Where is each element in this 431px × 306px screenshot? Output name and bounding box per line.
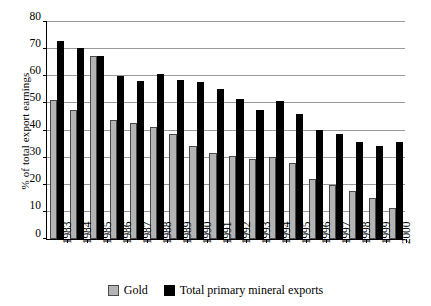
legend-label: Total primary mineral exports bbox=[180, 283, 323, 298]
x-tick-label: 1993 bbox=[261, 222, 273, 244]
y-tick-label: 60 bbox=[11, 65, 41, 77]
bar-group bbox=[127, 22, 147, 239]
bar-group bbox=[107, 22, 127, 239]
bar-total-1994 bbox=[276, 101, 283, 239]
bar-total-1995 bbox=[296, 114, 303, 239]
bar-group bbox=[227, 22, 247, 239]
bar-total-1991 bbox=[217, 89, 224, 239]
bar-total-1987 bbox=[137, 81, 144, 239]
bar-group bbox=[87, 22, 107, 239]
bar-group bbox=[386, 22, 406, 239]
bar-group bbox=[47, 22, 67, 239]
bar-gold-1985 bbox=[90, 56, 97, 239]
bar-total-1983 bbox=[57, 41, 64, 239]
bar-group bbox=[67, 22, 87, 239]
bar-total-1984 bbox=[77, 48, 84, 239]
x-tick-label: 1991 bbox=[222, 222, 234, 244]
y-tick-label: 0 bbox=[11, 228, 41, 240]
bar-total-1988 bbox=[157, 74, 164, 239]
x-tick-label: 1983 bbox=[62, 222, 74, 244]
x-tick-label: 1988 bbox=[162, 222, 174, 244]
bar-group bbox=[147, 22, 167, 239]
bar-total-1993 bbox=[256, 110, 263, 239]
x-tick-label: 1987 bbox=[142, 222, 154, 244]
y-tick-label: 50 bbox=[11, 92, 41, 104]
x-tick-label: 1984 bbox=[82, 222, 94, 244]
y-tick-label: 10 bbox=[11, 200, 41, 212]
chart-legend: GoldTotal primary mineral exports bbox=[0, 283, 431, 298]
bar-group bbox=[246, 22, 266, 239]
x-tick-label: 2000 bbox=[401, 222, 413, 244]
legend-item: Gold bbox=[108, 283, 148, 298]
x-tick-label: 1996 bbox=[321, 222, 333, 244]
bar-gold-1983 bbox=[50, 100, 57, 239]
bar-total-1985 bbox=[97, 56, 104, 239]
bar-total-1989 bbox=[177, 80, 184, 239]
plot-area: 01020304050607080 1983198419851986198719… bbox=[46, 22, 405, 240]
legend-label: Gold bbox=[124, 283, 148, 298]
y-tick-label: 40 bbox=[11, 119, 41, 131]
x-tick-label: 1995 bbox=[301, 222, 313, 244]
bar-chart-figure: % of total export earnings 0102030405060… bbox=[0, 0, 431, 306]
legend-swatch-icon bbox=[108, 285, 119, 296]
y-tick-label: 70 bbox=[11, 38, 41, 50]
x-tick-label: 1998 bbox=[361, 222, 373, 244]
y-tick-label: 20 bbox=[11, 173, 41, 185]
bar-total-1992 bbox=[236, 99, 243, 239]
bar-group bbox=[266, 22, 286, 239]
bar-total-1986 bbox=[117, 76, 124, 240]
legend-item: Total primary mineral exports bbox=[164, 283, 323, 298]
x-tick-label: 1992 bbox=[241, 222, 253, 244]
bar-group bbox=[207, 22, 227, 239]
bar-group bbox=[286, 22, 306, 239]
bar-group bbox=[167, 22, 187, 239]
y-tick-label: 30 bbox=[11, 146, 41, 158]
x-tick-label: 1999 bbox=[381, 222, 393, 244]
x-tick-label: 1990 bbox=[202, 222, 214, 244]
bar-group bbox=[346, 22, 366, 239]
bar-total-1990 bbox=[197, 82, 204, 239]
bar-gold-1984 bbox=[70, 110, 77, 239]
x-tick-label: 1985 bbox=[102, 222, 114, 244]
bar-group bbox=[326, 22, 346, 239]
x-tick-label: 1989 bbox=[182, 222, 194, 244]
bar-group bbox=[366, 22, 386, 239]
bar-series-container bbox=[47, 22, 405, 239]
bar-group bbox=[306, 22, 326, 239]
x-tick-label: 1997 bbox=[341, 222, 353, 244]
x-tick-label: 1994 bbox=[281, 222, 293, 244]
x-tick-label: 1986 bbox=[122, 222, 134, 244]
y-tick-label: 80 bbox=[11, 11, 41, 23]
bar-group bbox=[187, 22, 207, 239]
legend-swatch-icon bbox=[164, 285, 175, 296]
